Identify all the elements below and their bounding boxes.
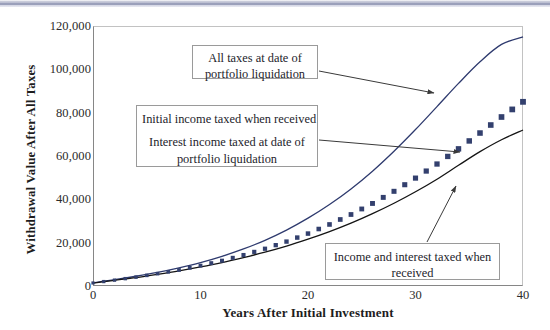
callout-line: portfolio liquidation <box>198 66 312 82</box>
data-point-marker <box>199 264 203 268</box>
data-point-marker <box>231 256 235 260</box>
data-point-marker <box>316 227 321 232</box>
data-point-marker <box>509 107 515 113</box>
data-point-marker <box>327 222 332 227</box>
data-point-marker <box>434 161 439 166</box>
data-point-marker <box>124 277 127 280</box>
callout-line: received <box>331 265 494 281</box>
data-point-marker <box>467 138 472 143</box>
leader-line-initial-income <box>319 140 460 152</box>
data-point-marker <box>263 247 267 251</box>
data-point-marker <box>370 201 375 206</box>
data-point-marker <box>488 122 494 128</box>
data-point-marker <box>102 280 105 283</box>
data-point-marker <box>349 212 354 217</box>
callout-line: Initial income taxed when received <box>142 111 312 127</box>
data-point-marker <box>424 168 429 173</box>
data-point-marker <box>413 176 418 181</box>
data-point-marker <box>284 239 288 243</box>
data-point-marker <box>145 274 149 278</box>
data-point-marker <box>456 146 461 151</box>
data-point-marker <box>477 130 483 136</box>
callout-line: Income and interest taxed when <box>331 249 494 265</box>
data-point-marker <box>381 195 386 200</box>
data-point-marker <box>359 207 364 212</box>
data-point-marker <box>520 99 526 105</box>
chart-figure: 120,000 100,000 80,000 60,000 40,000 20,… <box>0 0 550 330</box>
data-point-marker <box>177 268 181 272</box>
callout-line: portfolio liquidation <box>142 151 312 167</box>
data-point-marker <box>113 278 116 281</box>
callout-initial-income: Initial income taxed when received Inter… <box>136 105 318 167</box>
data-point-marker <box>156 272 160 276</box>
data-point-marker <box>220 259 224 263</box>
data-point-marker <box>274 243 278 247</box>
data-point-marker <box>402 182 407 187</box>
leader-line-all-taxes <box>319 71 434 93</box>
data-point-marker <box>445 154 450 159</box>
data-point-marker <box>338 217 343 222</box>
callout-line: All taxes at date of <box>198 50 312 66</box>
data-point-marker <box>188 266 192 270</box>
callout-all-taxes: All taxes at date of portfolio liquidati… <box>192 45 318 79</box>
callout-income-and-interest: Income and interest taxed when received <box>325 243 500 280</box>
data-point-marker <box>499 114 505 120</box>
data-point-marker <box>91 281 94 284</box>
data-point-marker <box>134 275 137 278</box>
data-point-marker <box>241 253 245 257</box>
data-point-marker <box>252 250 256 254</box>
data-point-marker <box>306 231 311 236</box>
data-point-marker <box>209 261 213 265</box>
data-point-marker <box>166 270 170 274</box>
data-point-marker <box>295 235 299 239</box>
data-point-marker <box>391 189 396 194</box>
callout-line: Interest income taxed at date of <box>142 134 312 150</box>
leader-line-income-and-interest <box>427 186 456 242</box>
